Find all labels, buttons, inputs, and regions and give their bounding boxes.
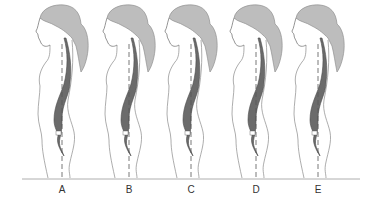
posture-figures-svg: [0, 0, 371, 205]
figure-label-a: A: [59, 184, 66, 195]
figure-a: [36, 5, 88, 179]
figure-b: [103, 5, 155, 179]
figure-label-b: B: [126, 184, 133, 195]
figure-e: [292, 5, 344, 179]
figure-label-d: D: [252, 184, 259, 195]
posture-illustration: A B C D E: [0, 0, 371, 205]
figure-label-c: C: [187, 184, 194, 195]
figure-label-e: E: [315, 184, 322, 195]
figure-c: [165, 5, 217, 179]
figure-d: [230, 5, 282, 179]
